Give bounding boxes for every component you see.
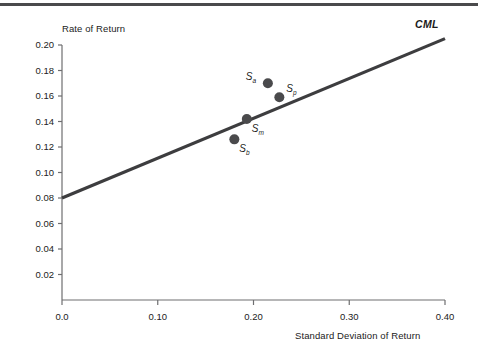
y-tick-label: 0.10: [20, 167, 54, 178]
plot-area: [0, 0, 478, 355]
x-tick-label: 0.30: [329, 311, 369, 322]
y-tick-label: 0.16: [20, 90, 54, 101]
point-label-p: Sp: [286, 83, 296, 96]
point-label-base: S: [286, 83, 293, 94]
point-label-b: Sb: [239, 143, 249, 156]
point-label-m: Sm: [252, 123, 264, 136]
point-label-subscript: b: [246, 149, 250, 156]
point-label-base: S: [246, 71, 253, 82]
point-label-a: Sa: [246, 71, 256, 84]
point-label-subscript: p: [293, 89, 297, 96]
y-tick-label: 0.08: [20, 192, 54, 203]
x-tick-label: 0.0: [42, 311, 82, 322]
y-tick-label: 0.02: [20, 269, 54, 280]
y-tick-label: 0.14: [20, 116, 54, 127]
y-tick-label: 0.20: [20, 39, 54, 50]
point-label-subscript: m: [258, 129, 263, 136]
cml-line: [62, 39, 445, 198]
point-label-base: S: [239, 143, 246, 154]
point-label-subscript: a: [253, 77, 257, 84]
y-tick-label: 0.18: [20, 65, 54, 76]
y-tick-label: 0.04: [20, 243, 54, 254]
x-tick-label: 0.20: [234, 311, 274, 322]
x-tick-label: 0.40: [425, 311, 465, 322]
y-tick-label: 0.06: [20, 218, 54, 229]
x-tick-label: 0.10: [138, 311, 178, 322]
chart-figure: Rate of Return Standard Deviation of Ret…: [0, 0, 478, 355]
cml-annotation-label: CML: [415, 18, 439, 30]
y-tick-label: 0.12: [20, 141, 54, 152]
